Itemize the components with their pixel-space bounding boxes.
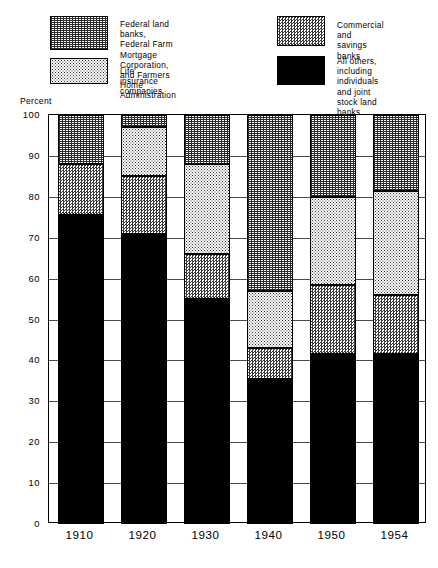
gridline [49, 279, 425, 280]
x-axis-tick-labels: 191019201930194019501954 [48, 528, 426, 552]
bar-1940 [247, 115, 293, 522]
gridline [49, 197, 425, 198]
bar-segment-1920-commercial-savings [121, 176, 167, 233]
bar-segment-1940-federal-land-banks [247, 115, 293, 291]
x-axis-tick-label-1910: 1910 [50, 528, 110, 541]
y-axis-unit-label: Percent [20, 96, 52, 106]
bar-segment-1954-all-others [373, 354, 419, 524]
bar-segment-1920-all-others [121, 234, 167, 524]
bar-segment-1954-life-insurance [373, 191, 419, 295]
bar-segment-1920-life-insurance [121, 127, 167, 176]
x-axis-tick-label-1954: 1954 [365, 528, 425, 541]
bar-segment-1950-commercial-savings [310, 285, 356, 355]
bar-segment-1930-life-insurance [184, 164, 230, 254]
y-axis-tick-label: 40 [0, 354, 40, 365]
y-axis-tick-label: 10 [0, 477, 40, 488]
x-axis-tick-label-1930: 1930 [176, 528, 236, 541]
bar-segment-1954-commercial-savings [373, 295, 419, 354]
bar-segment-1910-federal-land-banks [58, 115, 104, 164]
bar-segment-1950-all-others [310, 354, 356, 524]
legend-swatch-life-insurance [50, 58, 108, 84]
gridline [49, 238, 425, 239]
y-axis-tick-label: 70 [0, 231, 40, 242]
bar-1950 [310, 115, 356, 522]
legend-swatch-federal-land-banks [50, 16, 108, 50]
bar-segment-1940-commercial-savings [247, 348, 293, 379]
bar-segment-1940-all-others [247, 379, 293, 524]
bar-segment-1910-commercial-savings [58, 164, 104, 215]
bar-1954 [373, 115, 419, 522]
gridline [49, 401, 425, 402]
y-axis-tick-label: 0 [0, 518, 40, 529]
y-axis-tick-labels: 0102030405060708090100 [0, 114, 44, 523]
bar-segment-1930-all-others [184, 299, 230, 524]
y-axis-tick-label: 50 [0, 313, 40, 324]
gridline [49, 483, 425, 484]
bar-segment-1954-federal-land-banks [373, 115, 419, 191]
y-axis-tick-label: 60 [0, 272, 40, 283]
x-axis-tick-label-1920: 1920 [113, 528, 173, 541]
gridline [49, 320, 425, 321]
legend-swatch-all-others [277, 56, 325, 85]
legend-label-commercial-savings: Commercial and savings banks [337, 20, 384, 61]
y-axis-tick-label: 90 [0, 149, 40, 160]
bar-segment-1930-federal-land-banks [184, 115, 230, 164]
legend-label-life-insurance: Life insurance companies [120, 66, 162, 97]
legend-label-all-others: All others, including individuals and jo… [337, 56, 379, 117]
bar-segment-1950-federal-land-banks [310, 115, 356, 197]
gridline [49, 442, 425, 443]
bar-1930 [184, 115, 230, 522]
y-axis-tick-label: 100 [0, 109, 40, 120]
chart-plot-area [48, 114, 426, 523]
bar-1910 [58, 115, 104, 522]
bar-segment-1950-life-insurance [310, 197, 356, 285]
y-axis-tick-label: 20 [0, 436, 40, 447]
y-axis-tick-label: 30 [0, 395, 40, 406]
bar-segment-1930-commercial-savings [184, 254, 230, 299]
legend-swatch-commercial-savings [277, 16, 325, 46]
bar-segment-1920-federal-land-banks [121, 115, 167, 127]
bar-segment-1940-life-insurance [247, 291, 293, 348]
x-axis-tick-label-1950: 1950 [302, 528, 362, 541]
chart-legend: Federal land banks, Federal Farm Mortgag… [0, 0, 438, 92]
y-axis-tick-label: 80 [0, 190, 40, 201]
bar-1920 [121, 115, 167, 522]
gridline [49, 360, 425, 361]
bar-segment-1910-all-others [58, 215, 104, 524]
gridline [49, 156, 425, 157]
x-axis-tick-label-1940: 1940 [239, 528, 299, 541]
